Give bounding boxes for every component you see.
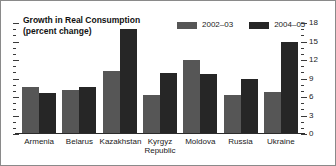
bar (160, 73, 177, 134)
y-axis-minor-tick (13, 72, 16, 73)
y-axis-major-tick (301, 116, 307, 117)
bar-group (59, 23, 99, 134)
bar (241, 79, 258, 134)
x-axis-category-label: Ukraine (261, 137, 301, 146)
x-axis-category-label: Kazakhstan (100, 137, 140, 146)
y-axis-minor-tick (301, 66, 304, 67)
y-axis-tick-label: 3 (309, 112, 313, 120)
bar (62, 90, 79, 134)
y-axis-minor-tick (13, 54, 16, 55)
y-axis-minor-tick (301, 103, 304, 104)
y-axis-minor-tick (301, 48, 304, 49)
plot-area (19, 23, 301, 134)
y-axis-minor-tick (13, 85, 16, 86)
bar (103, 71, 120, 134)
y-axis-tick-label: 18 (309, 19, 318, 27)
x-axis-category-label: Armenia (19, 137, 59, 146)
y-axis-major-tick (13, 134, 19, 135)
y-axis-minor-tick (301, 29, 304, 30)
bar (39, 93, 56, 134)
y-axis-minor-tick (13, 48, 16, 49)
y-axis-minor-tick (13, 66, 16, 67)
y-axis-minor-tick (301, 35, 304, 36)
y-axis-minor-tick (301, 54, 304, 55)
y-axis-minor-tick (13, 109, 16, 110)
y-axis-minor-tick (301, 122, 304, 123)
y-axis-minor-tick (13, 128, 16, 129)
y-axis-major-tick (301, 79, 307, 80)
y-axis-minor-tick (301, 128, 304, 129)
bar-group (261, 23, 301, 134)
x-axis-category-label: Moldova (180, 137, 220, 146)
y-axis-tick-label: 6 (309, 93, 313, 101)
x-axis-category-label: Russia (220, 137, 260, 146)
chart-figure: Growth in Real Consumption (percent chan… (0, 0, 336, 166)
y-axis-major-tick (301, 42, 307, 43)
y-axis-minor-tick (301, 72, 304, 73)
bar (120, 29, 137, 134)
y-axis-minor-tick (301, 85, 304, 86)
bar-group (220, 23, 260, 134)
x-axis-category-label: Belarus (59, 137, 99, 146)
y-axis-minor-tick (13, 103, 16, 104)
y-axis-ticks-right (301, 23, 307, 134)
y-axis-minor-tick (301, 91, 304, 92)
y-axis-tick-label: 15 (309, 38, 318, 46)
y-axis-major-tick (301, 97, 307, 98)
y-axis-minor-tick (13, 35, 16, 36)
y-axis-minor-tick (13, 91, 16, 92)
bar-group (100, 23, 140, 134)
bar (224, 95, 241, 134)
y-axis-tick-label: 0 (309, 130, 313, 138)
bar (143, 95, 160, 134)
y-axis-major-tick (301, 60, 307, 61)
y-axis-minor-tick (13, 122, 16, 123)
bar-group (140, 23, 180, 134)
bar-group (19, 23, 59, 134)
y-axis-labels: 0369121518 (309, 23, 335, 134)
y-axis-minor-tick (13, 29, 16, 30)
bar (79, 87, 96, 134)
bar (264, 92, 281, 134)
y-axis-major-tick (301, 23, 307, 24)
x-axis-baseline (15, 133, 305, 134)
bar (200, 74, 217, 134)
y-axis-tick-label: 9 (309, 75, 313, 83)
y-axis-minor-tick (301, 109, 304, 110)
bar-group (180, 23, 220, 134)
bar (281, 42, 298, 135)
bar (22, 87, 39, 134)
y-axis-major-tick (301, 134, 307, 135)
bar (183, 60, 200, 134)
x-axis-category-label: Kyrgyz Republic (140, 137, 180, 155)
y-axis-tick-label: 12 (309, 56, 318, 64)
